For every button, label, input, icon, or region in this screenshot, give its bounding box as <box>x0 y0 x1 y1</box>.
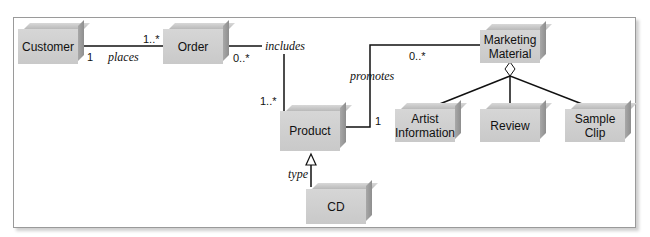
class-product-label: Product <box>280 111 340 151</box>
class-customer[interactable]: Customer <box>18 29 78 64</box>
class-sample-clip[interactable]: Sample Clip <box>565 109 625 142</box>
mult-order-places: 1..* <box>143 33 160 45</box>
mult-marketing-promotes: 0..* <box>409 50 426 62</box>
class-marketing-material[interactable]: Marketing Material <box>480 30 540 63</box>
class-sample-clip-label: Sample Clip <box>565 109 625 142</box>
class-order-label: Order <box>163 29 223 64</box>
mult-product-promotes: 1 <box>375 115 381 127</box>
class-artist-information[interactable]: Artist Information <box>395 109 455 142</box>
class-marketing-material-label: Marketing Material <box>480 30 540 63</box>
class-cd-label: CD <box>306 189 366 224</box>
label-places: places <box>108 50 139 65</box>
label-type: type <box>288 167 308 182</box>
class-review-label: Review <box>480 109 540 142</box>
class-cd[interactable]: CD <box>306 189 366 224</box>
mult-product-includes: 1..* <box>260 95 277 107</box>
class-artist-information-label: Artist Information <box>395 109 455 142</box>
label-promotes: promotes <box>350 69 394 84</box>
label-includes: includes <box>265 39 305 54</box>
class-product[interactable]: Product <box>280 111 340 151</box>
mult-order-includes: 0..* <box>233 52 250 64</box>
class-order[interactable]: Order <box>163 29 223 64</box>
mult-customer-places: 1 <box>87 51 93 63</box>
class-customer-label: Customer <box>18 29 78 64</box>
class-review[interactable]: Review <box>480 109 540 142</box>
